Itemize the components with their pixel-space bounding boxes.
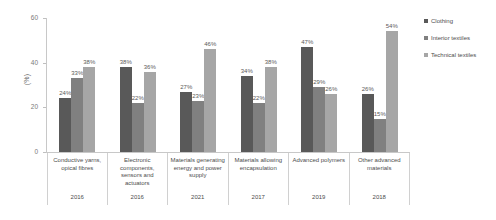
legend-label: Clothing	[431, 18, 453, 24]
category-axis-table: Conductive yarns, opical fibres2016Elect…	[47, 153, 410, 205]
bar	[325, 94, 337, 152]
bar-group: 26%15%54%	[350, 18, 411, 152]
legend-label: Interior textiles	[431, 35, 470, 41]
category-label: Other advanced materials	[352, 157, 408, 172]
bar-value-label: 15%	[374, 111, 386, 118]
bar	[144, 72, 156, 152]
bar	[241, 76, 253, 152]
bar-value-label: 38%	[120, 59, 132, 66]
legend-swatch-icon	[424, 53, 428, 57]
y-axis-tick-label: 20	[10, 103, 38, 110]
bar	[374, 119, 386, 153]
bar	[253, 103, 265, 152]
bar-value-label: 46%	[204, 41, 216, 48]
bar-value-label: 23%	[192, 93, 204, 100]
bar-value-label: 26%	[325, 86, 337, 93]
bar-value-label: 38%	[83, 59, 95, 66]
legend-swatch-icon	[424, 36, 428, 40]
bar	[120, 67, 132, 152]
bar	[301, 47, 313, 152]
category-cell: Conductive yarns, opical fibres2016	[47, 153, 108, 205]
category-cell: Other advanced materials2018	[350, 153, 411, 205]
bar	[71, 78, 83, 152]
bar-value-label: 26%	[362, 86, 374, 93]
legend-label: Technical textiles	[431, 52, 476, 58]
category-cell: Electronic components, sensors and actua…	[108, 153, 169, 205]
chart-legend: ClothingInterior textilesTechnical texti…	[424, 18, 494, 69]
bar-value-label: 33%	[71, 70, 83, 77]
plot-area: 24%33%38%38%22%36%27%23%46%34%22%38%47%2…	[47, 18, 410, 152]
category-year-label: 2016	[48, 194, 107, 200]
category-year-label: 2017	[229, 194, 289, 200]
category-label: Conductive yarns, opical fibres	[50, 157, 105, 172]
y-axis-tick-label: 0	[10, 148, 38, 155]
category-label: Materials allowing encapsulation	[231, 157, 287, 172]
legend-item[interactable]: Interior textiles	[424, 35, 494, 41]
bar-group: 47%29%26%	[289, 18, 350, 152]
bar-group: 24%33%38%	[47, 18, 108, 152]
legend-item[interactable]: Technical textiles	[424, 52, 494, 58]
y-axis-tick-label: 60	[10, 14, 38, 21]
bar-chart: (%) 0204060 24%33%38%38%22%36%27%23%46%3…	[0, 0, 496, 220]
legend-swatch-icon	[424, 19, 428, 23]
category-year-label: 2019	[289, 194, 349, 200]
category-year-label: 2021	[168, 194, 228, 200]
bar-value-label: 54%	[386, 23, 398, 30]
bar-value-label: 38%	[265, 59, 277, 66]
bar	[59, 98, 71, 152]
bar	[192, 101, 204, 152]
category-label: Electronic components, sensors and actua…	[110, 157, 166, 187]
legend-item[interactable]: Clothing	[424, 18, 494, 24]
category-year-label: 2018	[350, 194, 410, 200]
bar	[204, 49, 216, 152]
bar-value-label: 27%	[180, 84, 192, 91]
bar	[132, 103, 144, 152]
bar	[386, 31, 398, 152]
bar-group: 34%22%38%	[229, 18, 290, 152]
bar-value-label: 22%	[132, 95, 144, 102]
bar-group: 38%22%36%	[108, 18, 169, 152]
category-cell: Advanced polymers2019	[289, 153, 350, 205]
bar-value-label: 22%	[253, 95, 265, 102]
bar-group: 27%23%46%	[168, 18, 229, 152]
bar-value-label: 29%	[313, 79, 325, 86]
bar	[180, 92, 192, 152]
bar-value-label: 36%	[144, 64, 156, 71]
category-label: Advanced polymers	[291, 157, 347, 165]
y-axis-tick-label: 40	[10, 59, 38, 66]
category-cell: Materials allowing encapsulation2017	[229, 153, 290, 205]
bar	[83, 67, 95, 152]
bar	[362, 94, 374, 152]
category-label: Materials generating energy and power su…	[170, 157, 226, 180]
bar-value-label: 24%	[59, 90, 71, 97]
bar	[265, 67, 277, 152]
bar-value-label: 47%	[301, 39, 313, 46]
category-year-label: 2016	[108, 194, 168, 200]
bar-value-label: 34%	[241, 68, 253, 75]
category-cell: Materials generating energy and power su…	[168, 153, 229, 205]
bar	[313, 87, 325, 152]
